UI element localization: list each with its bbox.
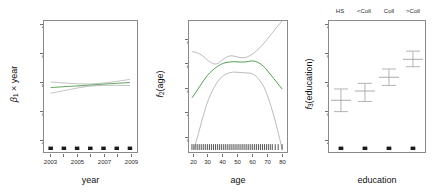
panel-education-toplabel-gt-coll: >Coll (401, 8, 425, 14)
panel-age-xtick (193, 154, 194, 157)
panel-education-toplabel-coll: Coll (377, 8, 401, 14)
panel-age-rug (192, 144, 282, 150)
panel-education-toplabel-hs: HS (328, 8, 352, 14)
panel-age-plot-area (188, 20, 288, 153)
panel-age-xtick (252, 154, 253, 157)
panel-age-xtick-label: 80 (274, 159, 291, 165)
panel-age-fit-line (192, 61, 282, 98)
panel-year-xtick (50, 154, 51, 157)
panel-age-xtick (267, 154, 268, 157)
panel-year-xtick-label: 2005 (65, 159, 90, 165)
panel-year-xtick (63, 154, 64, 157)
panel-age-xtick (237, 154, 238, 157)
panel-age: f2(age) 2 0 -2 -4 -6 (146, 0, 295, 195)
panel-year-xtick (90, 154, 91, 157)
panel-year-xtick (117, 154, 118, 157)
panel-education: f3(education) HS <Coll Coll >Coll 4 2 0 … (295, 0, 439, 195)
panel-age-xtick (207, 154, 208, 157)
panel-age-curves (189, 21, 287, 152)
panel-year-xtick (77, 154, 78, 157)
panel-year: β1 × year 4 2 0 -2 -4 (0, 0, 146, 195)
panel-education-plot-area (328, 20, 426, 153)
panel-year-curves (44, 21, 137, 152)
panel-education-rug (341, 147, 413, 150)
panel-year-xtick-label: 2003 (38, 159, 63, 165)
panel-year-xtick-label: 2009 (119, 159, 144, 165)
panel-year-xtick-label: 2007 (92, 159, 117, 165)
panel-education-toplabel-lt-coll: <Coll (352, 8, 376, 14)
panel-year-xtick (104, 154, 105, 157)
panel-year-rug (51, 147, 130, 150)
panel-education-xlabel: education (328, 176, 426, 185)
panel-year-ylabel: β1 × year (10, 49, 20, 119)
gam-component-plot-figure: β1 × year 4 2 0 -2 -4 (0, 0, 439, 195)
panel-age-upper-band (192, 21, 282, 64)
panel-age-ylabel: f2(age) (156, 53, 166, 115)
panel-age-lower-band (194, 72, 282, 149)
panel-year-xlabel: year (43, 176, 138, 185)
errorbar-lt-coll (355, 83, 375, 101)
errorbar-gt-coll (403, 51, 423, 67)
panel-year-plot-area (43, 20, 138, 153)
panel-year-xtick (131, 154, 132, 157)
panel-education-ylabel: f3(education) (305, 46, 315, 122)
panel-education-errorbars (329, 21, 425, 152)
panel-age-xtick (282, 154, 283, 157)
errorbar-hs (331, 89, 351, 112)
panel-age-xlabel: age (188, 176, 288, 185)
errorbar-coll (379, 69, 399, 85)
panel-age-xtick (222, 154, 223, 157)
